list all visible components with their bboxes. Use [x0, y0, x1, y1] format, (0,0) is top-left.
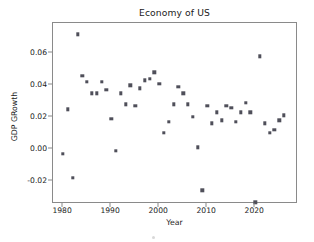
scatter-point	[167, 120, 170, 123]
scatter-point	[114, 149, 117, 152]
x-axis-tick-mark	[62, 203, 63, 207]
scatter-point	[133, 104, 136, 107]
scatter-point	[210, 122, 213, 125]
y-axis-label: GDP GRowth	[10, 72, 19, 162]
x-axis-tick-label: 2020	[245, 206, 264, 215]
scatter-point	[186, 103, 189, 106]
scatter-point	[282, 114, 285, 117]
scatter-point	[273, 128, 276, 131]
scatter-point	[172, 103, 175, 106]
x-axis-tick-label: 1990	[100, 206, 119, 215]
y-axis-tick-label: 0.02	[30, 112, 47, 121]
scatter-point	[85, 80, 88, 83]
scatter-point	[249, 111, 252, 114]
x-axis-tick-label: 2000	[148, 206, 167, 215]
scatter-point	[109, 117, 112, 120]
x-axis-tick-mark	[254, 203, 255, 207]
scatter-point	[124, 103, 127, 106]
scatter-point	[138, 87, 141, 90]
scatter-point	[105, 88, 108, 91]
y-axis-tick-label: -0.02	[27, 175, 47, 184]
scatter-point	[81, 74, 84, 77]
y-axis-tick-label: 0.06	[30, 48, 47, 57]
scatter-point	[71, 176, 74, 179]
scatter-point	[268, 131, 271, 134]
scatter-point	[61, 152, 64, 155]
y-axis-tick-mark	[48, 84, 52, 85]
y-axis-tick-mark	[48, 116, 52, 117]
scatter-point	[215, 111, 218, 114]
x-axis-tick-mark	[206, 203, 207, 207]
scatter-point	[206, 104, 209, 107]
scatter-point	[225, 104, 228, 107]
scatter-point	[181, 91, 184, 94]
scatter-point	[119, 91, 122, 94]
y-axis-tick-label: 0.00	[30, 143, 47, 152]
chart-title: Economy of US	[52, 7, 297, 18]
y-axis-tick-mark	[48, 179, 52, 180]
scatter-point	[220, 119, 223, 122]
x-axis-label: Year	[52, 218, 297, 227]
scatter-point	[278, 119, 281, 122]
x-axis-tick-mark	[110, 203, 111, 207]
scatter-point	[177, 85, 180, 88]
scatter-point	[239, 111, 242, 114]
scatter-point	[148, 77, 151, 80]
plot-area	[52, 22, 297, 203]
scatter-point	[263, 122, 266, 125]
scatter-point	[95, 91, 98, 94]
scatter-point	[76, 32, 79, 35]
scatter-point	[258, 55, 261, 58]
y-axis-tick-mark	[48, 147, 52, 148]
x-axis-tick-mark	[158, 203, 159, 207]
y-axis-tick-label: 0.04	[30, 80, 47, 89]
scatter-point	[196, 146, 199, 149]
scatter-point	[234, 120, 237, 123]
scatter-point	[244, 101, 247, 104]
y-axis-tick-labels: -0.020.000.020.040.06	[0, 0, 47, 242]
scatter-point	[191, 115, 194, 118]
scatter-point	[157, 82, 160, 85]
scatter-point	[129, 83, 132, 86]
figure-canvas: Economy of US -0.020.000.020.040.06 GDP …	[0, 0, 314, 242]
image-artifact-speck	[152, 236, 155, 239]
scatter-point	[100, 80, 103, 83]
x-axis-tick-label: 1980	[52, 206, 71, 215]
x-axis-tick-label: 2010	[197, 206, 216, 215]
scatter-point	[230, 106, 233, 109]
scatter-point	[162, 131, 165, 134]
scatter-point	[143, 79, 146, 82]
scatter-point	[66, 107, 69, 110]
scatter-point	[153, 71, 156, 74]
scatter-point	[201, 189, 204, 192]
scatter-point	[90, 91, 93, 94]
y-axis-tick-mark	[48, 52, 52, 53]
